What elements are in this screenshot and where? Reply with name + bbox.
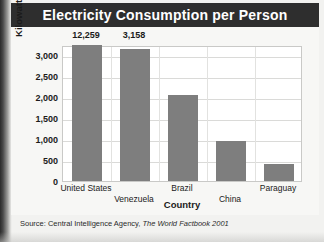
y-axis-tick-label: 2,500 <box>12 72 58 82</box>
bar-value-labels: 12,2593,158 <box>62 30 302 46</box>
y-axis-tick-label: 500 <box>12 156 58 166</box>
chart-figure: Electricity Consumption per Person Kilow… <box>0 0 324 242</box>
source-prefix: Source: Central Intelligence Agency, <box>20 219 140 228</box>
category-separator <box>111 47 112 181</box>
bar <box>264 164 294 181</box>
bar <box>216 141 246 181</box>
y-axis-tick-label: 2,000 <box>12 93 58 103</box>
category-separator <box>159 47 160 181</box>
y-axis-tick-label: 0 <box>12 177 58 187</box>
bar-value-label: 3,158 <box>123 30 146 40</box>
y-axis-tick-label: 1,000 <box>12 135 58 145</box>
y-axis-title: Kilowatts (per hour) <box>13 0 24 52</box>
x-axis-title: Country <box>62 199 302 210</box>
y-axis-tick-label: 3,000 <box>12 51 58 61</box>
x-axis-tick-label: United States <box>60 183 111 193</box>
source-publication: The World Factbook 2001 <box>142 219 228 228</box>
plot-area <box>62 46 302 182</box>
chart-title-banner: Electricity Consumption per Person <box>11 3 319 27</box>
category-separator <box>207 47 208 181</box>
x-axis-tick-label: Paraguay <box>260 183 296 193</box>
source-note: Source: Central Intelligence Agency, The… <box>20 219 229 228</box>
y-axis-tick-label: 1,500 <box>12 114 58 124</box>
bar <box>168 95 198 181</box>
bar <box>72 45 102 181</box>
y-axis-ticks: 05001,0001,5002,0002,5003,000 <box>8 46 58 182</box>
bar <box>120 49 150 181</box>
page-bottom-shadow <box>0 232 324 242</box>
chart-title: Electricity Consumption per Person <box>43 7 288 23</box>
bar-value-label: 12,259 <box>72 30 100 40</box>
category-separator <box>255 47 256 181</box>
x-axis-tick-label: Brazil <box>171 183 192 193</box>
